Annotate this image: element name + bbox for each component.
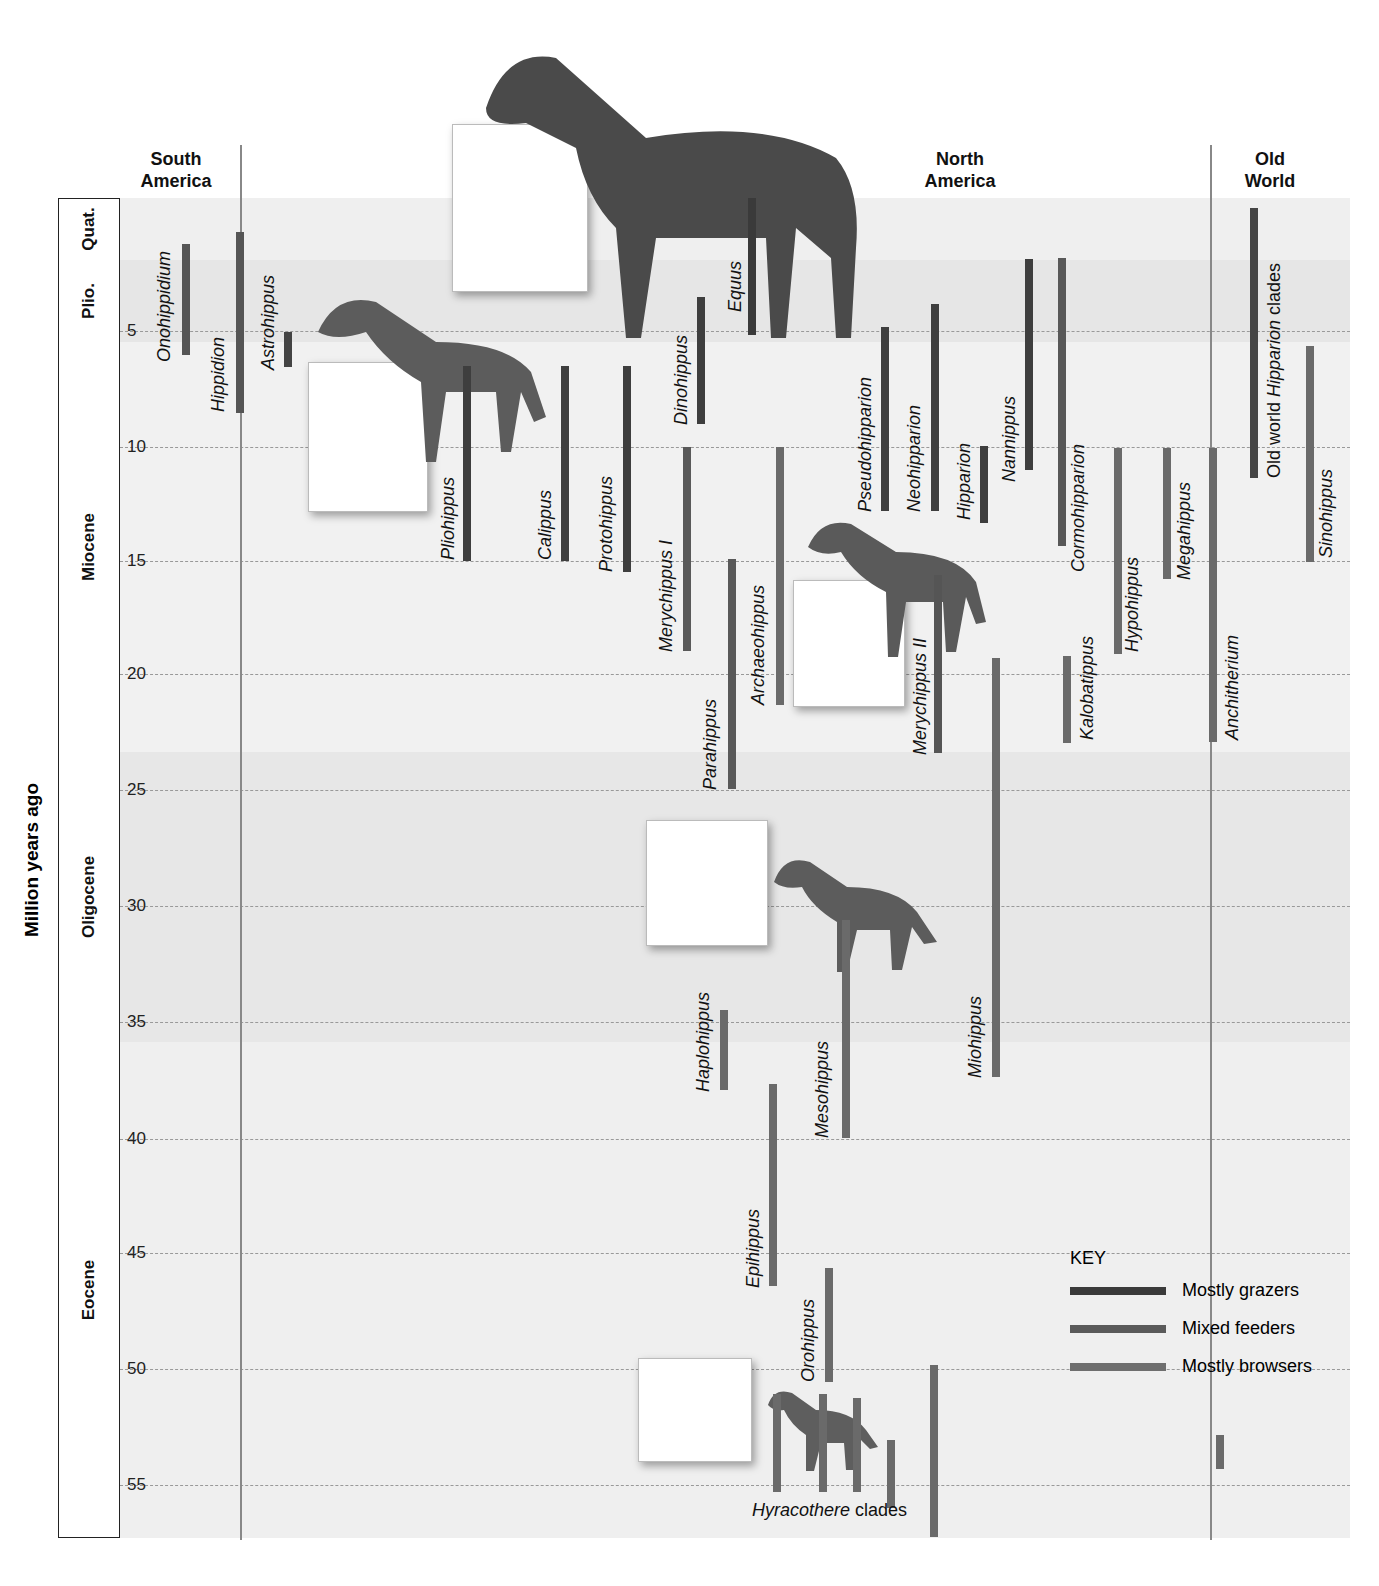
legend-item-grazers: Mostly grazers — [1070, 1280, 1299, 1301]
epoch-pliocene: Plio. — [58, 260, 120, 342]
label-old-world-hipparion: Old world Hipparion clades — [1264, 263, 1285, 478]
label-parahippus: Parahippus — [700, 699, 721, 790]
region-north-america: North America — [900, 148, 1020, 192]
label-mesohippus: Mesohippus — [812, 1041, 833, 1138]
tick-label: 45 — [127, 1243, 146, 1263]
label-pliohippus: Pliohippus — [438, 477, 459, 560]
range-bar-hypohippus — [1114, 448, 1122, 654]
legend-swatch — [1070, 1325, 1166, 1333]
label-protohippus: Protohippus — [596, 476, 617, 572]
tick-label: 25 — [127, 780, 146, 800]
epoch-eocene: Eocene — [58, 1042, 120, 1538]
legend-swatch — [1070, 1287, 1166, 1295]
range-bar-hippidion — [236, 232, 244, 413]
label-hippidion: Hippidion — [208, 337, 229, 412]
region-old-world: Old World — [1230, 148, 1310, 192]
range-bar-equus — [748, 198, 756, 335]
range-bar-astrohippus — [284, 332, 292, 367]
gridline-45 — [120, 1253, 1350, 1254]
legend-item-browsers: Mostly browsers — [1070, 1356, 1312, 1377]
legend-item-mixed: Mixed feeders — [1070, 1318, 1295, 1339]
range-bar-protohippus — [623, 366, 631, 572]
label-miohippus: Miohippus — [965, 996, 986, 1078]
range-bar-hyracothere-1 — [773, 1394, 781, 1492]
tick-label: 55 — [127, 1475, 146, 1495]
range-bar-old-world-eocene — [1216, 1435, 1224, 1469]
range-bar-mesohippus — [842, 920, 850, 1138]
label-hipparion: Hipparion — [954, 443, 975, 520]
tick-label: 40 — [127, 1129, 146, 1149]
gridline-25 — [120, 790, 1350, 791]
region-south-america: South America — [120, 148, 232, 192]
range-bar-onohippidium — [182, 244, 190, 355]
label-merychippus-ii: Merychippus II — [910, 638, 931, 755]
label-astrohippus: Astrohippus — [258, 275, 279, 370]
range-bar-hyracothere-3 — [853, 1398, 861, 1492]
label-equus: Equus — [725, 261, 746, 312]
range-bar-neohipparion — [931, 304, 939, 511]
range-bar-old-world-hipparion — [1250, 208, 1258, 478]
range-bar-hyracothere-4 — [887, 1440, 895, 1508]
range-bar-cormohipparion — [1058, 258, 1066, 546]
range-bar-epihippus — [769, 1084, 777, 1286]
label-anchitherium: Anchitherium — [1222, 635, 1243, 740]
range-bar-miohippus — [992, 658, 1000, 1077]
gridline-55 — [120, 1485, 1350, 1486]
label-dinohippus: Dinohippus — [671, 335, 692, 425]
horse-evolution-chart: Quat. Plio. Miocene Oligocene Eocene Mil… — [0, 0, 1379, 1586]
epoch-miocene: Miocene — [58, 342, 120, 752]
label-megahippus: Megahippus — [1174, 482, 1195, 580]
label-merychippus-i: Merychippus I — [656, 540, 677, 652]
label-cormohipparion: Cormohipparion — [1068, 444, 1089, 572]
label-hypohippus: Hypohippus — [1122, 557, 1143, 652]
legend-swatch — [1070, 1363, 1166, 1371]
range-bar-sinohippus — [1306, 346, 1314, 562]
tick-label: 50 — [127, 1359, 146, 1379]
range-bar-parahippus — [728, 559, 736, 789]
label-hyracothere-clades: Hyracothere clades — [752, 1500, 907, 1521]
epoch-oligocene: Oligocene — [58, 752, 120, 1042]
label-sinohippus: Sinohippus — [1316, 469, 1337, 558]
label-epihippus: Epihippus — [743, 1209, 764, 1288]
range-bar-archaeohippus — [776, 447, 784, 705]
mesohippus-illustration — [772, 852, 942, 977]
merychippus-illustration — [806, 512, 996, 662]
range-bar-pseudohipparion — [881, 327, 889, 511]
mesohippus-foot-tooth-card — [646, 820, 768, 946]
range-bar-calippus — [561, 366, 569, 561]
tick-label: 15 — [127, 551, 146, 571]
label-haplohippus: Haplohippus — [693, 992, 714, 1092]
range-bar-pliohippus — [463, 366, 471, 561]
tick-label: 35 — [127, 1012, 146, 1032]
range-bar-megahippus — [1163, 448, 1171, 579]
tick-label: 5 — [127, 321, 136, 341]
label-neohipparion: Neohipparion — [904, 405, 925, 512]
legend-title: KEY — [1070, 1248, 1106, 1269]
range-bar-nannippus — [1025, 259, 1033, 470]
label-calippus: Calippus — [535, 490, 556, 560]
tick-label: 30 — [127, 896, 146, 916]
range-bar-hyracothere-5 — [930, 1365, 938, 1537]
range-bar-hyracothere-2 — [819, 1394, 827, 1492]
pliohippus-illustration — [316, 282, 556, 472]
label-pseudohipparion: Pseudohipparion — [855, 377, 876, 512]
gridline-35 — [120, 1022, 1350, 1023]
epoch-quaternary: Quat. — [58, 198, 120, 260]
tick-label: 20 — [127, 664, 146, 684]
gridline-40 — [120, 1139, 1350, 1140]
range-bar-orohippus — [825, 1268, 833, 1382]
range-bar-hipparion — [980, 446, 988, 523]
range-bar-dinohippus — [697, 297, 705, 424]
label-archaeohippus: Archaeohippus — [748, 585, 769, 705]
label-onohippidium: Onohippidium — [154, 251, 175, 362]
y-axis-label: Million years ago — [12, 760, 52, 960]
hyracotherium-foot-tooth-card — [638, 1358, 752, 1462]
range-bar-haplohippus — [720, 1010, 728, 1090]
range-bar-merychippus-i — [683, 447, 691, 651]
label-nannippus: Nannippus — [999, 396, 1020, 482]
range-bar-merychippus-ii — [934, 575, 942, 753]
label-orohippus: Orohippus — [798, 1299, 819, 1382]
label-kalobatippus: Kalobatippus — [1077, 636, 1098, 740]
range-bar-anchitherium — [1209, 448, 1217, 742]
tick-label: 10 — [127, 437, 146, 457]
